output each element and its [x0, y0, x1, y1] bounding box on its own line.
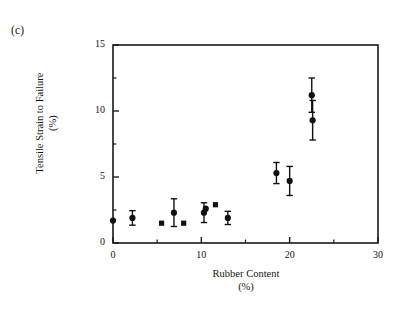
x-tick-label: 30 — [363, 249, 393, 260]
y-tick-label: 15 — [83, 38, 105, 49]
x-axis-title: Rubber Content (%) — [113, 267, 379, 293]
scatter-plot — [0, 0, 410, 310]
y-axis-title: Tensile Strain to Failure (%) — [33, 23, 59, 223]
axis-frame — [113, 45, 378, 243]
y-tick-label: 10 — [83, 104, 105, 115]
axis-ticks — [113, 45, 378, 243]
figure-panel-c: (c) Tensile Strain to Failure (%) Rubber… — [0, 0, 410, 310]
x-tick-label: 0 — [98, 249, 128, 260]
y-tick-label: 0 — [83, 236, 105, 247]
x-tick-label: 10 — [186, 249, 216, 260]
y-tick-label: 5 — [83, 170, 105, 181]
x-tick-label: 20 — [275, 249, 305, 260]
data-points — [110, 78, 316, 227]
